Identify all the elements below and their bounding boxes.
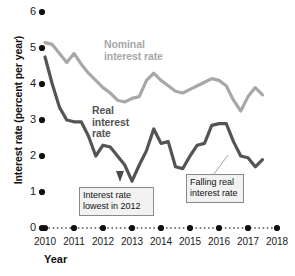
series-lines: [45, 43, 263, 182]
x-tick-dot: [129, 225, 135, 231]
y-axis-title: Interest rate (percent per year): [12, 30, 24, 190]
y-tick-label: 5: [22, 41, 36, 53]
x-tick-dot: [245, 225, 251, 231]
x-axis-dot: [233, 227, 235, 229]
x-axis-tick-dots: [42, 225, 280, 231]
annotation-leader-falling: [214, 155, 228, 174]
y-tick-label: 2: [22, 149, 36, 161]
x-tick-label: 2010: [30, 236, 60, 247]
x-tick-label: 2014: [146, 236, 176, 247]
y-tick-dot: [39, 9, 45, 15]
x-axis-dot: [195, 227, 197, 229]
series-line-real: [45, 57, 263, 181]
x-axis-dot: [61, 227, 63, 229]
x-axis-dot: [166, 227, 168, 229]
y-tick-label: 6: [22, 5, 36, 17]
x-tick-label: 2011: [59, 236, 89, 247]
x-tick-dot: [100, 225, 106, 231]
x-axis-dot: [258, 227, 260, 229]
x-tick-dot: [216, 225, 222, 231]
annotation-box-lowest: Interest ratelowest in 2012: [79, 187, 154, 216]
y-tick-dot: [39, 45, 45, 51]
x-axis-dot: [241, 227, 243, 229]
x-axis-dot: [225, 227, 227, 229]
x-axis-dot: [78, 227, 80, 229]
x-axis-dot: [170, 227, 172, 229]
x-tick-dot: [274, 225, 280, 231]
x-axis-dot: [262, 227, 264, 229]
x-axis-dot: [120, 227, 122, 229]
x-axis-dot: [149, 227, 151, 229]
x-axis-dot: [86, 227, 88, 229]
x-axis-dot: [141, 227, 143, 229]
x-axis-dot: [107, 227, 109, 229]
x-axis-dot: [271, 227, 273, 229]
x-axis-dot: [237, 227, 239, 229]
series-label-nominal: Nominalinterest rate: [104, 39, 163, 62]
x-axis-dot: [254, 227, 256, 229]
x-axis-dot: [208, 227, 210, 229]
x-tick-label: 2017: [233, 236, 263, 247]
x-axis-dot: [69, 227, 71, 229]
x-axis-dot: [90, 227, 92, 229]
x-tick-label: 2016: [204, 236, 234, 247]
x-axis-dot: [178, 227, 180, 229]
x-axis-dot: [174, 227, 176, 229]
x-axis-dot: [115, 227, 117, 229]
x-axis-dot: [124, 227, 126, 229]
y-tick-label: 0: [22, 221, 36, 233]
x-axis-dot: [111, 227, 113, 229]
x-tick-label: 2012: [88, 236, 118, 247]
x-tick-label: 2013: [117, 236, 147, 247]
y-tick-label: 4: [22, 77, 36, 89]
annotation-arrow-lowest: [116, 171, 124, 182]
x-axis-dot: [212, 227, 214, 229]
x-axis-dot: [204, 227, 206, 229]
x-axis-dot: [199, 227, 201, 229]
x-axis-dot: [82, 227, 84, 229]
y-tick-dot: [39, 189, 45, 195]
y-tick-label: 1: [22, 185, 36, 197]
y-tick-label: 3: [22, 113, 36, 125]
x-axis-dot: [183, 227, 185, 229]
x-tick-dot: [187, 225, 193, 231]
y-tick-dot: [39, 117, 45, 123]
x-axis-dot: [229, 227, 231, 229]
interest-rate-line-chart: Interest rate (percent per year) Year 01…: [0, 0, 295, 276]
x-axis-dot: [136, 227, 138, 229]
x-axis-title: Year: [44, 253, 67, 265]
x-tick-dot: [158, 225, 164, 231]
x-axis-dot: [94, 227, 96, 229]
x-tick-label: 2015: [175, 236, 205, 247]
y-tick-dot: [39, 225, 45, 231]
x-axis-dot: [153, 227, 155, 229]
series-label-real: Realinterestrate: [92, 105, 129, 140]
x-tick-label: 2018: [262, 236, 292, 247]
x-axis-dot: [52, 227, 54, 229]
x-axis-dot: [57, 227, 59, 229]
annotation-box-falling: Falling realinterest rate: [186, 174, 244, 203]
x-axis-dot: [48, 227, 50, 229]
x-axis-dot: [65, 227, 67, 229]
x-axis-dot: [267, 227, 269, 229]
y-tick-dot: [39, 153, 45, 159]
x-axis-dot: [145, 227, 147, 229]
y-tick-dot: [39, 81, 45, 87]
x-tick-dot: [71, 225, 77, 231]
